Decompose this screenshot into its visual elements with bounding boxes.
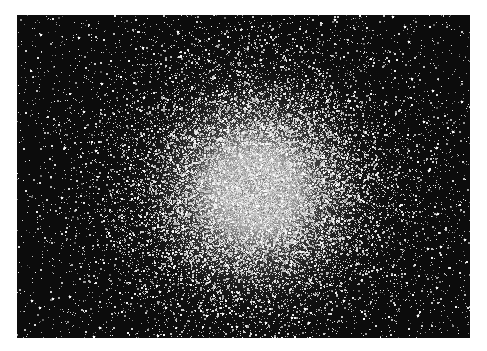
star-field-canvas: [17, 15, 470, 338]
image-description: Black-and-white astronomical photograph …: [0, 0, 1, 1]
star-cluster-photo: [17, 15, 470, 338]
page: Black-and-white astronomical photograph …: [0, 0, 487, 351]
